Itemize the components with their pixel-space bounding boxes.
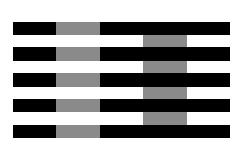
left-gray-segment — [56, 73, 100, 87]
black-bar — [13, 47, 230, 61]
black-bar — [13, 125, 230, 138]
left-gray-segment — [56, 22, 100, 35]
black-bar — [13, 22, 230, 35]
left-gray-segment — [56, 47, 100, 61]
left-gray-segment — [56, 99, 100, 112]
left-gray-segment — [56, 125, 100, 138]
black-bar — [13, 99, 230, 112]
black-bar — [13, 73, 230, 87]
